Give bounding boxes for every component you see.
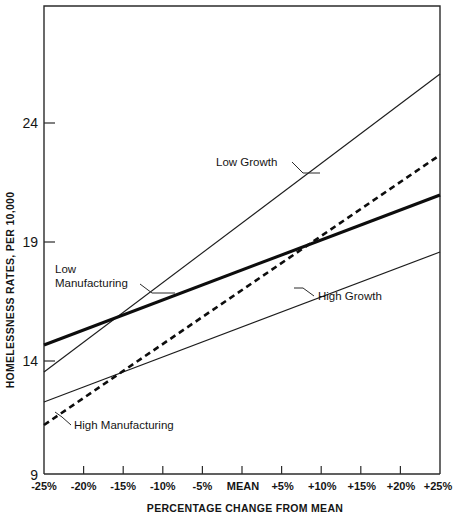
x-axis-tick-labels: -25% -20% -15% -10% -5% MEAN +5% +10% +1… xyxy=(31,480,452,492)
annotation-low-manufacturing-label-line1: Low xyxy=(55,263,77,275)
chart-page: 24 19 14 9 -25% -20% -15% -10% -5% MEAN … xyxy=(0,0,460,520)
x-tick-label-minus5: -5% xyxy=(193,480,213,492)
y-tick-label-14: 14 xyxy=(22,353,38,369)
annotation-low-manufacturing-label-line2: Manufacturing xyxy=(55,277,128,289)
x-tick-label-minus20: -20% xyxy=(71,480,97,492)
x-tick-label-minus15: -15% xyxy=(110,480,136,492)
annotation-low-manufacturing: Low Manufacturing xyxy=(55,263,175,293)
homelessness-rates-line-chart: 24 19 14 9 -25% -20% -15% -10% -5% MEAN … xyxy=(0,0,460,520)
y-tick-label-24: 24 xyxy=(22,115,38,131)
x-tick-label-plus5: +5% xyxy=(271,480,294,492)
x-tick-label-mean: MEAN xyxy=(227,480,259,492)
x-tick-label-plus15: +15% xyxy=(348,480,377,492)
annotation-low-growth: Low Growth xyxy=(216,156,320,173)
x-tick-label-minus10: -10% xyxy=(150,480,176,492)
x-tick-label-plus10: +10% xyxy=(308,480,337,492)
x-tick-label-plus25: +25% xyxy=(424,480,453,492)
annotation-high-manufacturing: High Manufacturing xyxy=(55,412,174,431)
annotation-high-growth: High Growth xyxy=(294,288,382,302)
annotation-low-growth-label: Low Growth xyxy=(216,156,277,168)
x-axis-ticks xyxy=(84,466,401,474)
annotation-high-growth-label: High Growth xyxy=(318,290,382,302)
x-axis-title: PERCENTAGE CHANGE FROM MEAN xyxy=(147,502,343,514)
x-tick-label-minus25: -25% xyxy=(31,480,57,492)
series-line-low-manufacturing xyxy=(44,195,440,345)
plot-frame xyxy=(44,6,440,474)
x-tick-label-plus20: +20% xyxy=(387,480,416,492)
y-tick-label-19: 19 xyxy=(22,234,38,250)
y-axis-title: HOMELESSNESS RATES, PER 10,000 xyxy=(4,192,16,389)
annotation-high-manufacturing-label: High Manufacturing xyxy=(74,419,174,431)
y-axis-tick-labels: 24 19 14 9 xyxy=(22,115,38,483)
y-axis-ticks xyxy=(44,123,55,361)
